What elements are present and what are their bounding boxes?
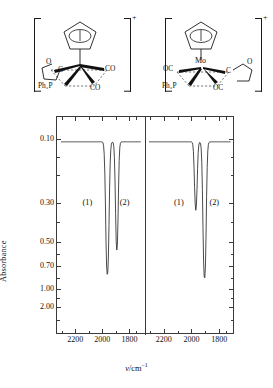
y-tick-mark-minor	[57, 320, 60, 321]
x-tick-mark	[75, 329, 76, 333]
x-tick-mark-minor	[226, 117, 227, 120]
x-tick-mark-minor	[62, 331, 63, 334]
x-tick-mark-minor	[116, 331, 117, 334]
carbonyl-bottom-label-1: CO	[90, 84, 100, 91]
x-tick-mark	[219, 117, 220, 121]
y-tick-label: 0.70	[40, 262, 54, 270]
x-tick-mark-minor	[226, 331, 227, 334]
x-tick-mark	[129, 117, 130, 121]
x-tick-mark	[129, 329, 130, 333]
cp-ring-2	[185, 22, 217, 49]
y-tick-mark-minor	[57, 254, 60, 255]
y-tick-mark	[57, 242, 61, 243]
cp-ring-1	[64, 22, 96, 49]
x-tick-mark-minor	[89, 117, 90, 120]
y-tick-mark-minor	[231, 298, 234, 299]
phosphine-label-2: Ph₃P	[162, 82, 177, 89]
peak-label: (2)	[209, 199, 219, 207]
y-tick-mark-minor	[231, 254, 234, 255]
structure-2: +	[137, 0, 267, 112]
y-tick-mark	[229, 139, 233, 140]
y-tick-mark	[57, 203, 61, 204]
x-tick-mark	[75, 117, 76, 121]
peak-label: (2)	[120, 199, 130, 207]
structure-1-drawing	[6, 0, 136, 112]
y-tick-mark-minor	[57, 298, 60, 299]
y-tick-label: 1.00	[40, 285, 54, 293]
x-tick-mark	[102, 117, 103, 121]
structures-row: +	[0, 0, 273, 112]
spectra-traces	[57, 117, 235, 335]
structure-1: +	[6, 0, 136, 112]
ir-trace-right	[149, 142, 231, 278]
x-tick-mark-minor	[89, 331, 90, 334]
x-tick-label: 2000	[94, 336, 110, 344]
x-tick-mark-minor	[205, 117, 206, 120]
x-tick-mark-minor	[136, 117, 137, 120]
thf-carbon-label-2: C	[226, 67, 231, 74]
thf-carbon-label-1: C	[58, 66, 63, 73]
peak-label: (1)	[174, 199, 184, 207]
x-tick-label: 1800	[211, 336, 227, 344]
x-tick-mark-minor	[62, 117, 63, 120]
carbonyl-right-label-1: CO	[105, 65, 115, 72]
y-tick-mark	[57, 307, 61, 308]
x-tick-mark-minor	[150, 331, 151, 334]
y-tick-mark-minor	[231, 157, 234, 158]
y-tick-label: 0.30	[40, 199, 54, 207]
carbonyl-bottom-label-2: OC	[213, 84, 223, 91]
y-tick-label: 0.50	[40, 238, 54, 246]
thf-ring-2	[233, 64, 252, 81]
x-tick-mark	[191, 329, 192, 333]
peak-label: (1)	[83, 199, 93, 207]
x-tick-mark-minor	[116, 117, 117, 120]
x-tick-label: 1800	[121, 336, 137, 344]
x-tick-label: 2000	[183, 336, 199, 344]
y-tick-mark-minor	[57, 175, 60, 176]
y-tick-mark	[57, 289, 61, 290]
plot-frame: 0.100.300.500.701.002.00220020001800(1)(…	[56, 116, 234, 334]
y-tick-mark-minor	[231, 222, 234, 223]
x-tick-mark-minor	[178, 117, 179, 120]
y-tick-mark	[229, 266, 233, 267]
y-tick-mark-minor	[57, 222, 60, 223]
y-tick-mark-minor	[57, 157, 60, 158]
x-tick-mark	[191, 117, 192, 121]
x-tick-mark-minor	[178, 331, 179, 334]
x-tick-mark	[102, 329, 103, 333]
x-axis-exponent: −1	[141, 362, 147, 368]
thf-oxygen-label-1: O	[46, 58, 51, 65]
y-tick-mark-minor	[57, 278, 60, 279]
x-tick-mark	[164, 329, 165, 333]
metal-label-2: Mo	[195, 57, 206, 64]
y-tick-mark	[57, 266, 61, 267]
x-axis-unit: /cm	[129, 364, 142, 373]
x-tick-mark	[219, 329, 220, 333]
x-tick-label: 2200	[156, 336, 172, 344]
x-tick-mark	[164, 117, 165, 121]
y-tick-mark	[229, 242, 233, 243]
carbonyl-left-label-2: OC	[163, 65, 173, 72]
y-tick-mark-minor	[231, 320, 234, 321]
y-tick-mark	[229, 203, 233, 204]
ir-spectra-figure: +	[0, 0, 273, 388]
y-tick-label: 2.00	[40, 303, 54, 311]
y-tick-label: 0.10	[40, 135, 54, 143]
ir-spectrum-plot: 0.100.300.500.701.002.00220020001800(1)(…	[0, 112, 273, 388]
x-axis-label: ν/cm−1	[0, 362, 273, 373]
y-tick-mark-minor	[231, 175, 234, 176]
x-tick-mark-minor	[136, 331, 137, 334]
y-tick-mark	[229, 289, 233, 290]
x-tick-mark-minor	[205, 331, 206, 334]
y-tick-mark	[229, 307, 233, 308]
thf-oxygen-label-2: O	[247, 58, 252, 65]
ir-trace-left	[61, 142, 141, 274]
phosphine-label-1: Ph₃P	[38, 82, 53, 89]
y-tick-mark	[57, 139, 61, 140]
y-axis-label: Absorbance	[0, 240, 8, 282]
y-tick-mark-minor	[231, 278, 234, 279]
x-tick-mark-minor	[150, 117, 151, 120]
x-tick-label: 2200	[67, 336, 83, 344]
